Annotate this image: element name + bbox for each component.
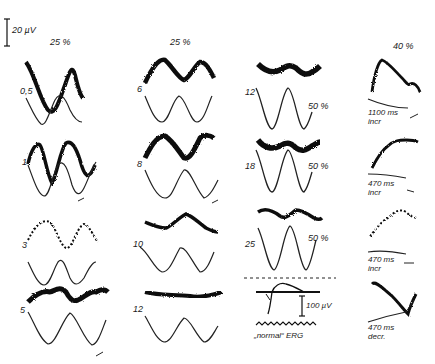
- freq-label-25: 25: [245, 240, 255, 249]
- scale-bar-label: 20 µV: [12, 26, 36, 35]
- mod-label-50-c: 50 %: [308, 234, 329, 243]
- mod-label-50-a: 50 %: [308, 102, 329, 111]
- panel-col2-6hz: [145, 60, 214, 122]
- freq-label-10: 10: [133, 240, 143, 249]
- erg-figure: 20 µV 25 % 25 % 40 % 0,5 1 3 5 6 8 10 12…: [0, 0, 435, 364]
- column-header-1: 25 %: [50, 38, 71, 47]
- column-header-2: 25 %: [170, 38, 191, 47]
- freq-label-5: 5: [20, 306, 25, 315]
- normal-erg-caption: „normal“ ERG: [254, 332, 303, 340]
- duration-label-470-a: 470 ms: [368, 180, 394, 188]
- direction-label-incr-2: incr: [368, 189, 381, 197]
- freq-label-6: 6: [137, 85, 142, 94]
- panel-col2-12hz: [145, 292, 222, 342]
- panel-col3-12hz: [256, 64, 320, 129]
- duration-label-470-c: 470 ms: [368, 324, 394, 332]
- panel-col1-3hz: [28, 221, 98, 285]
- freq-label-0.5: 0,5: [20, 87, 33, 96]
- freq-label-1: 1: [22, 158, 27, 167]
- freq-label-3: 3: [22, 241, 27, 250]
- panel-col1-5hz: [28, 289, 108, 356]
- panel-col4-470ms-decr: [368, 283, 416, 322]
- freq-label-12-col2: 12: [133, 305, 143, 314]
- panel-col1-0.5hz: [26, 62, 83, 124]
- direction-label-incr-3: incr: [368, 265, 381, 273]
- scale-100uv-label: 100 µV: [306, 302, 332, 310]
- duration-label-470-b: 470 ms: [368, 256, 394, 264]
- scale-bar-20uv: [4, 19, 10, 46]
- panel-col2-10hz: [140, 214, 218, 272]
- stimulus-flicker-trace: [256, 322, 316, 325]
- column-header-3: 40 %: [393, 42, 414, 51]
- freq-label-18: 18: [245, 162, 255, 171]
- duration-label-1100: 1100 ms: [368, 109, 398, 117]
- direction-label-incr-1: incr: [368, 118, 381, 126]
- panel-col2-8hz: [145, 135, 218, 203]
- freq-label-12-col3: 12: [245, 88, 255, 97]
- mod-label-50-b: 50 %: [308, 162, 329, 171]
- panel-col1-1hz: [28, 142, 96, 201]
- direction-label-decr: decr.: [368, 333, 386, 341]
- scale-bar-100uv: [299, 296, 305, 316]
- freq-label-8: 8: [137, 160, 142, 169]
